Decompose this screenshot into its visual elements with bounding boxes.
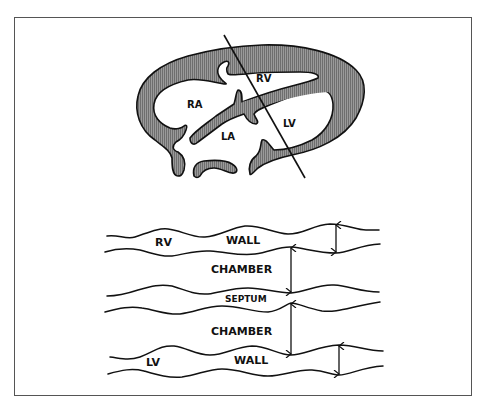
label-mmode-lv: LV: [146, 356, 160, 369]
label-septum: SEPTUM: [225, 294, 267, 304]
heart-diagram: RA RV LA LV RV WALL CHAMBER SEPTUM CHAMB…: [0, 0, 487, 413]
label-lv: LV: [283, 118, 296, 129]
label-ra: RA: [187, 99, 203, 110]
aortic-root-fragment: [193, 160, 236, 177]
label-rv-chamber: CHAMBER: [211, 263, 273, 276]
label-la: LA: [221, 131, 235, 142]
label-rv: RV: [256, 73, 272, 84]
label-lv-wall: WALL: [234, 354, 268, 367]
label-mmode-rv: RV: [155, 236, 172, 249]
heart-section: RA RV LA LV: [137, 35, 364, 178]
label-lv-chamber: CHAMBER: [211, 325, 273, 338]
interventricular-septum: [242, 80, 334, 112]
label-rv-wall: WALL: [226, 234, 260, 247]
